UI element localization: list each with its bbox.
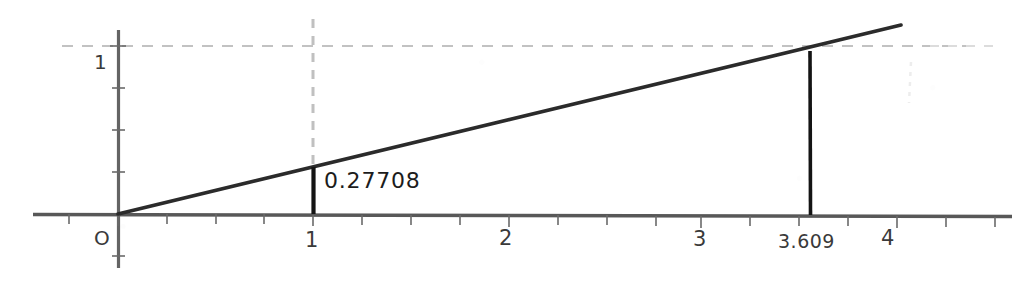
x-tick-label-origin: O bbox=[94, 226, 110, 250]
x-tick-label-root: 3.609 bbox=[778, 230, 835, 252]
drop-line-x-root bbox=[810, 51, 811, 215]
paper-smudge bbox=[909, 62, 911, 103]
x-tick-label-1: 1 bbox=[305, 228, 319, 252]
value-annotation-label: 0.27708 bbox=[324, 168, 421, 193]
data-line-series-0 bbox=[118, 25, 901, 214]
x-tick-label-4: 4 bbox=[881, 226, 895, 250]
x-axis-line bbox=[33, 215, 1012, 217]
x-tick-label-2: 2 bbox=[499, 226, 513, 250]
x-tick-label-3: 3 bbox=[693, 227, 707, 251]
figure-canvas: 1 O 1 2 3 3.609 4 0.27708 bbox=[0, 0, 1025, 283]
y-tick-label-1: 1 bbox=[94, 50, 107, 74]
